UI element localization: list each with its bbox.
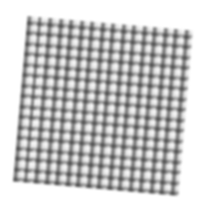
weave-highlights (13, 16, 193, 196)
gingham-fabric-swatch (13, 16, 193, 196)
